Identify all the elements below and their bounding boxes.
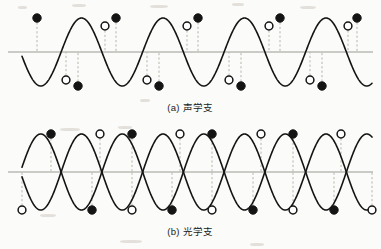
caption-b-label: (b) — [167, 226, 180, 237]
caption-optical: (b)光学支 — [0, 224, 381, 238]
atom-marker-open — [225, 76, 233, 84]
atom-marker-open — [143, 76, 151, 84]
atom-marker-open — [62, 76, 70, 84]
atom-marker-open — [306, 76, 314, 84]
acoustic-branch-plot — [0, 0, 381, 105]
atom-marker-filled — [276, 14, 284, 22]
atom-marker-open — [368, 206, 376, 214]
atom-marker-filled — [33, 14, 41, 22]
atom-marker-open — [183, 22, 191, 30]
atom-marker-filled — [353, 14, 361, 22]
atom-marker-filled — [208, 130, 216, 138]
atom-marker-filled — [318, 82, 326, 90]
atom-marker-filled — [155, 82, 163, 90]
atom-marker-open — [337, 130, 345, 138]
optical-branch-plot — [0, 120, 381, 225]
atom-marker-open — [18, 206, 26, 214]
atom-marker-filled — [289, 130, 297, 138]
atom-marker-open — [289, 206, 297, 214]
caption-a-text: 声学支 — [183, 102, 214, 113]
atom-marker-open — [344, 22, 352, 30]
atom-marker-open — [96, 130, 104, 138]
caption-a-label: (a) — [167, 102, 180, 113]
atom-marker-filled — [88, 206, 96, 214]
atom-marker-open — [265, 22, 273, 30]
caption-b-text: 光学支 — [183, 226, 214, 237]
atom-marker-open — [257, 130, 265, 138]
atom-marker-filled — [47, 130, 55, 138]
figure-root: (a)声学支 (b)光学支 — [0, 0, 381, 249]
atom-marker-open — [208, 206, 216, 214]
atom-marker-filled — [249, 206, 257, 214]
atom-marker-filled — [128, 130, 136, 138]
atom-marker-open — [128, 206, 136, 214]
atom-marker-filled — [112, 14, 120, 22]
atom-marker-filled — [74, 82, 82, 90]
atom-marker-filled — [168, 206, 176, 214]
atom-marker-open — [101, 22, 109, 30]
atom-marker-filled — [194, 14, 202, 22]
atom-marker-filled — [330, 206, 338, 214]
atom-marker-filled — [237, 82, 245, 90]
atom-marker-open — [176, 130, 184, 138]
caption-acoustic: (a)声学支 — [0, 100, 381, 114]
